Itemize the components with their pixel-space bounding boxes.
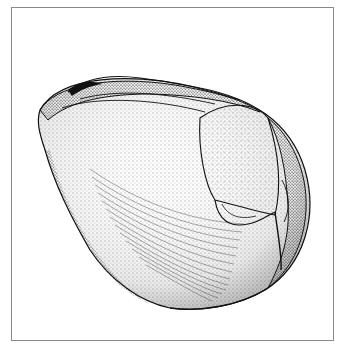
shell-illustration [0,0,344,348]
